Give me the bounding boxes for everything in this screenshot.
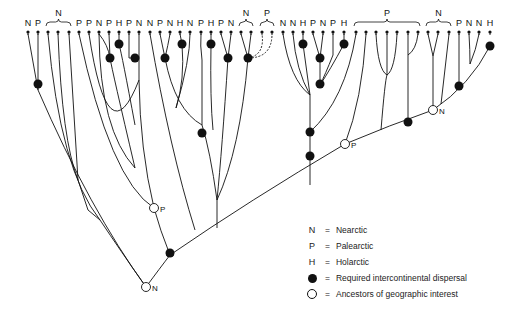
legend-text: Ancestors of geographic interest bbox=[336, 289, 458, 299]
tip-label: N bbox=[228, 18, 235, 28]
ancestor-open-circle bbox=[429, 106, 438, 115]
bracket-label: P bbox=[264, 8, 270, 18]
nearctic-symbol: N bbox=[305, 225, 319, 235]
filled-circle-icon bbox=[308, 274, 317, 283]
bracket bbox=[260, 19, 274, 26]
ancestor-label: P bbox=[160, 205, 165, 214]
tip-label: P bbox=[157, 18, 163, 28]
tip-label: H bbox=[208, 18, 215, 28]
tip-label: H bbox=[487, 18, 494, 28]
equals-sign: = bbox=[325, 273, 330, 283]
tip-label: H bbox=[300, 18, 307, 28]
holarctic-symbol: H bbox=[305, 257, 319, 267]
bracket-label: N bbox=[55, 8, 62, 18]
tip-label: N bbox=[136, 18, 143, 28]
legend-item-ancestors: = Ancestors of geographic interest bbox=[305, 286, 467, 302]
bracket bbox=[426, 19, 451, 26]
tip-label: N bbox=[147, 18, 154, 28]
tip-label: N bbox=[280, 18, 287, 28]
bracket bbox=[46, 19, 71, 26]
legend-item-palearctic: P = Palearctic bbox=[305, 238, 467, 254]
tip-label: N bbox=[167, 18, 174, 28]
legend-text: Palearctic bbox=[336, 241, 373, 251]
tip-label: N bbox=[187, 18, 194, 28]
bracket-label: N bbox=[435, 8, 442, 18]
tip-label: N bbox=[290, 18, 297, 28]
tip-label: H bbox=[177, 18, 184, 28]
legend-item-nearctic: N = Nearctic bbox=[305, 222, 467, 238]
tip-label: N bbox=[320, 18, 327, 28]
tip-label: N bbox=[96, 18, 103, 28]
equals-sign: = bbox=[325, 257, 330, 267]
cladogram-figure: NPPPNPHPNNPNHNPHPNNNHPNPHPNNH NNPPN bbox=[0, 0, 518, 313]
equals-sign: = bbox=[325, 225, 330, 235]
equals-sign: = bbox=[325, 289, 330, 299]
legend-text: Required intercontinental dispersal bbox=[336, 273, 467, 283]
bracket bbox=[354, 19, 420, 26]
tip-label: P bbox=[310, 18, 316, 28]
tip-label: P bbox=[456, 18, 462, 28]
ancestor-label: N bbox=[439, 107, 445, 116]
tip-label: P bbox=[106, 18, 112, 28]
tip-label: P bbox=[86, 18, 92, 28]
tip-labels: NPPPNPHPNNPNHNPHPNNNHPNPHPNNH bbox=[25, 18, 494, 35]
tip-label: P bbox=[218, 18, 224, 28]
bracket-label: N bbox=[243, 8, 250, 18]
open-circle-icon bbox=[307, 289, 317, 299]
ancestor-label: P bbox=[351, 141, 356, 150]
tip-label: P bbox=[35, 18, 41, 28]
legend-item-dispersal: = Required intercontinental dispersal bbox=[305, 270, 467, 286]
bracket-label: P bbox=[384, 8, 390, 18]
tip-label: P bbox=[330, 18, 336, 28]
ancestor-open-circle bbox=[150, 204, 159, 213]
legend-text: Holarctic bbox=[336, 257, 369, 267]
equals-sign: = bbox=[325, 241, 330, 251]
tip-label: H bbox=[116, 18, 123, 28]
legend-text: Nearctic bbox=[336, 225, 367, 235]
ancestor-open-circle bbox=[142, 283, 151, 292]
tip-label: H bbox=[341, 18, 348, 28]
tip-label: N bbox=[466, 18, 473, 28]
legend-item-holarctic: H = Holarctic bbox=[305, 254, 467, 270]
tip-label: P bbox=[126, 18, 132, 28]
tip-label: P bbox=[198, 18, 204, 28]
legend: N = Nearctic P = Palearctic H = Holarcti… bbox=[305, 222, 467, 302]
tip-label: N bbox=[25, 18, 32, 28]
ancestor-label: N bbox=[152, 284, 158, 293]
tip-label: P bbox=[76, 18, 82, 28]
palearctic-symbol: P bbox=[305, 241, 319, 251]
ancestor-open-circle bbox=[341, 140, 350, 149]
bracket bbox=[239, 19, 253, 26]
tip-label: N bbox=[476, 18, 483, 28]
